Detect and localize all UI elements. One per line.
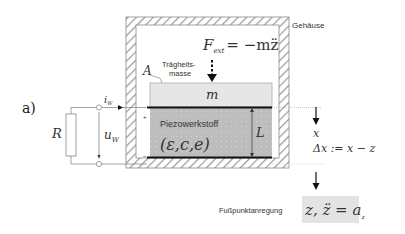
- displacement-label: x: [313, 127, 320, 140]
- resistor: [66, 114, 76, 156]
- piezo-material-label: Piezowerkstoff: [160, 119, 219, 129]
- base-excitation-arrow: [313, 172, 320, 190]
- minus-sign: −: [143, 153, 147, 159]
- terminal-top: [96, 105, 101, 110]
- base-excitation-label: Fußpunktanregung: [219, 206, 282, 215]
- housing-label: Gehäuse: [292, 21, 325, 30]
- voltage-label: uW: [104, 128, 120, 144]
- thickness-label: L: [255, 125, 265, 140]
- area-label: A: [142, 64, 152, 78]
- inertial-mass-label-1: Trägheits-: [162, 60, 196, 69]
- piezo-harvester-diagram: a) Gehäuse Fext= −mz̈ A Trägheits- masse…: [0, 0, 405, 234]
- mass-label: m: [206, 87, 218, 102]
- current-arrowhead: [118, 105, 123, 110]
- relative-displacement: Δx := x − z: [312, 142, 375, 155]
- resistor-label: R: [51, 126, 62, 141]
- terminal-bottom: [96, 161, 101, 166]
- displacement-arrow: [313, 107, 320, 125]
- voltage-arrowhead: [98, 155, 101, 159]
- panel-label: a): [22, 100, 36, 116]
- inertial-mass-label-2: masse: [169, 69, 191, 78]
- piezo-params: (ε,c,e): [160, 135, 210, 154]
- plus-sign: +: [143, 114, 147, 120]
- current-label: iW: [104, 94, 113, 106]
- base-excitation-equation: z, z̈ = az: [304, 201, 365, 220]
